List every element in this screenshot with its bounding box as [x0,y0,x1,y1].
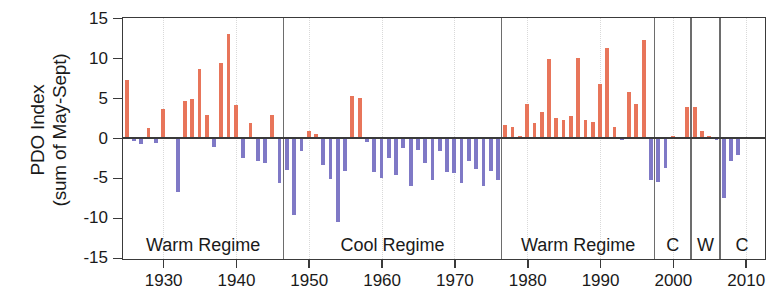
bar [416,138,420,150]
bar [642,40,646,138]
bar [554,118,558,138]
bar [736,138,740,156]
bar [336,138,340,222]
bar [576,58,580,138]
x-axis-tick-label: 1950 [279,271,339,290]
bar [722,138,726,198]
bar [380,138,384,178]
bar [460,138,464,184]
bar [605,48,609,138]
bar [270,115,274,138]
x-axis-tick [308,260,310,268]
zero-line [123,137,765,139]
plot-inner: Warm RegimeCool RegimeWarm RegimeCWC [123,18,765,259]
y-axis-tick [113,138,122,140]
y-axis-tick [113,178,122,180]
bar [540,112,544,138]
y-axis-tick-label: 15 [62,10,108,27]
bar [693,107,697,138]
bar [584,120,588,138]
y-axis-tick-label: -10 [62,209,108,226]
bar [438,138,442,152]
bar [285,138,289,170]
bar [634,104,638,138]
y-axis-tick [113,18,122,20]
bar [547,59,551,138]
y-axis-tick-label: 5 [62,90,108,107]
bar [729,138,733,161]
bar [190,99,194,138]
bar [409,138,413,186]
x-axis-tick [236,260,238,268]
bar [263,138,267,163]
y-axis-tick [113,98,122,100]
bar [482,138,486,186]
bar [423,138,427,164]
bar [241,138,245,158]
bar [343,138,347,171]
bar [278,138,282,183]
bar [256,138,260,161]
bar [525,104,529,138]
bar [219,63,223,138]
bar [387,138,391,158]
bar [350,96,354,138]
bar [649,138,653,180]
bar [212,138,216,148]
bar [533,123,537,138]
bar [401,138,405,148]
bar [372,138,376,172]
x-axis-tick-label: 1980 [498,271,558,290]
bar [627,92,631,138]
x-axis-tick-label: 2000 [643,271,703,290]
y-axis-tick-label: 0 [62,130,108,147]
bar [685,107,689,138]
bar [503,125,507,138]
x-axis-tick [745,260,747,268]
pdo-index-chart: PDO Index (sum of May-Sept) 151050-5-10-… [0,0,771,302]
bar [452,138,456,173]
bar [198,69,202,138]
x-axis-tick [381,260,383,268]
y-axis-tick-label: -15 [62,249,108,266]
bar [569,116,573,138]
x-axis-tick [527,260,529,268]
bar [161,109,165,138]
x-axis-tick [454,260,456,268]
bar [292,138,296,216]
bar [664,138,668,168]
bar [300,138,304,151]
bar [591,122,595,138]
bar [176,138,180,192]
regime-label-cool: C [655,235,691,255]
regime-label-warm: Warm Regime [502,235,655,255]
bar [489,138,493,171]
y-axis-tick-label: 10 [62,50,108,67]
plot-area: Warm RegimeCool RegimeWarm RegimeCWC [122,17,766,260]
bar [431,138,435,180]
bar [321,138,325,165]
regime-label-warm: W [691,235,720,255]
bar [227,34,231,138]
bar [467,138,471,161]
bar [154,138,158,144]
bar [656,138,660,182]
x-axis-tick-label: 2010 [716,271,771,290]
bar [562,120,566,138]
bar [249,123,253,138]
y-axis-tick [113,258,122,260]
bar [139,138,143,144]
x-axis-tick-label: 1960 [352,271,412,290]
bar [496,138,500,180]
y-axis-title-line1: PDO Index [27,15,49,245]
bar [598,84,602,138]
regime-label-cool: C [720,235,764,255]
regime-label-warm: Warm Regime [123,235,283,255]
bar [329,138,333,180]
x-axis-tick [600,260,602,268]
bar [183,101,187,138]
bar [358,98,362,138]
bar [125,80,129,138]
x-axis-tick-label: 1970 [425,271,485,290]
bar [474,138,478,169]
